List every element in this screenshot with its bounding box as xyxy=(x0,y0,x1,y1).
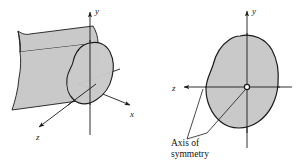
annotation-line-2: symmetry xyxy=(171,149,209,159)
axis-label-y-left: y xyxy=(94,6,99,16)
cross-section-outline-right xyxy=(206,35,278,128)
figure-root: y x z y z Axis of sy xyxy=(0,0,302,160)
right-diagram: y z Axis of symmetry xyxy=(171,6,292,159)
origin-marker-right xyxy=(244,84,249,89)
leader-line-z xyxy=(187,89,203,139)
axis-label-y-right: y xyxy=(251,6,256,16)
axis-label-z-right: z xyxy=(171,83,176,93)
annotation-line-1: Axis of xyxy=(171,138,200,148)
axis-label-x-left: x xyxy=(129,109,134,119)
figure-svg: y x z y z Axis of sy xyxy=(0,0,302,160)
axis-label-z-left: z xyxy=(35,132,40,142)
left-diagram: y x z xyxy=(12,6,134,142)
